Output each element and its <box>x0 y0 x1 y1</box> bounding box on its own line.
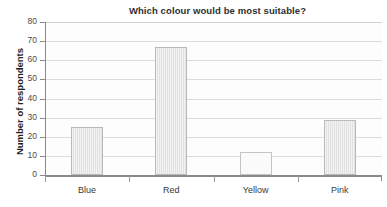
y-axis-tick-label: 30 <box>14 113 37 122</box>
y-axis-tick <box>40 41 45 42</box>
y-axis-tick <box>40 156 45 157</box>
bar-blue[interactable] <box>71 127 103 175</box>
bar-pink[interactable] <box>324 120 356 175</box>
x-axis-tick <box>45 176 46 182</box>
y-axis-tick <box>40 99 45 100</box>
y-axis-tick <box>40 79 45 80</box>
x-axis-tick <box>298 176 299 182</box>
y-axis-tick-label: 80 <box>14 17 37 26</box>
y-axis-tick-label: 50 <box>14 74 37 83</box>
x-axis-label-pink: Pink <box>300 185 380 195</box>
gridline <box>45 60 382 61</box>
y-axis-tick <box>40 60 45 61</box>
gridline <box>45 41 382 42</box>
plot-area <box>45 22 382 175</box>
gridline <box>45 22 382 23</box>
y-axis-tick <box>40 22 45 23</box>
y-axis-tick-label: 60 <box>14 55 37 64</box>
y-axis-tick <box>40 137 45 138</box>
y-axis-tick-label: 40 <box>14 94 37 103</box>
y-axis-tick-label: 0 <box>14 170 37 179</box>
bar-yellow[interactable] <box>240 152 272 175</box>
y-axis-tick <box>40 118 45 119</box>
gridline <box>45 118 382 119</box>
y-axis-tick-label: 70 <box>14 36 37 45</box>
bar-chart: Which colour would be most suitable? Num… <box>0 0 387 207</box>
x-axis-tick <box>214 176 215 182</box>
gridline <box>45 79 382 80</box>
gridline <box>45 99 382 100</box>
chart-title: Which colour would be most suitable? <box>48 5 387 16</box>
x-axis-label-blue: Blue <box>47 185 127 195</box>
x-axis-end-tick <box>381 175 382 181</box>
x-axis-tick <box>129 176 130 182</box>
y-axis-line <box>45 22 46 176</box>
bar-red[interactable] <box>155 47 187 175</box>
x-axis-label-yellow: Yellow <box>216 185 296 195</box>
y-axis-tick-label: 20 <box>14 132 37 141</box>
x-axis-label-red: Red <box>131 185 211 195</box>
y-axis-tick-label: 10 <box>14 151 37 160</box>
